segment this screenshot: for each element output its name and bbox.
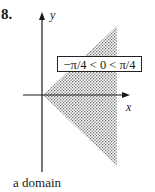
domain-diagram [0, 0, 155, 192]
shaded-wedge-region [43, 26, 117, 166]
y-axis-label: y [50, 8, 55, 23]
x-axis-arrow-icon [122, 92, 130, 98]
figure-caption: a domain [13, 175, 61, 191]
region-inequality-label: −π/4 < 0 < π/4 [57, 56, 142, 72]
y-axis-arrow-icon [39, 12, 45, 20]
x-axis-label: x [126, 100, 131, 115]
